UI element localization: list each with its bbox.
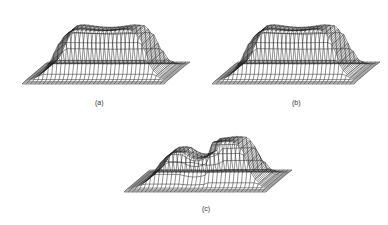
wireframe-lines <box>212 25 380 84</box>
panel-c-mesh <box>116 120 298 198</box>
panel-b-caption: (b) <box>292 99 301 106</box>
wireframe-lines <box>22 25 190 84</box>
panel-b-mesh <box>204 8 386 90</box>
wireframe-lines <box>124 136 292 192</box>
panel-a-caption: (a) <box>95 99 104 106</box>
panel-c-caption: (c) <box>202 205 210 212</box>
panel-a-mesh <box>14 8 196 90</box>
